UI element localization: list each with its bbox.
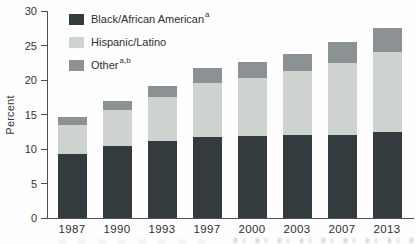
bar-2007 [328, 11, 357, 218]
legend-item: Hispanic/Latino [69, 36, 210, 49]
bar-segment-2000 [238, 78, 267, 136]
x-tick-label: 1993 [140, 223, 184, 235]
bar-segment-1993 [148, 141, 177, 218]
x-tick-label: 1997 [185, 223, 229, 235]
cropped-text-remnant [58, 240, 218, 243]
legend-label: Black/African American [91, 13, 204, 26]
legend-swatch [69, 37, 84, 48]
bar-segment-2000 [238, 62, 267, 78]
y-tick [41, 183, 47, 184]
bar-segment-2003 [283, 135, 312, 218]
bar-segment-2013 [373, 28, 402, 52]
bar-segment-2007 [328, 63, 357, 134]
bar-segment-2013 [373, 52, 402, 132]
y-tick [41, 11, 47, 12]
x-tick-label: 2013 [365, 223, 409, 235]
bar-segment-1993 [148, 86, 177, 97]
y-tick-label: 10 [7, 142, 37, 156]
bar-segment-1997 [193, 137, 222, 218]
y-tick-label: 30 [7, 4, 37, 18]
legend-label: Hispanic/Latino [91, 36, 166, 49]
bar-segment-1993 [148, 97, 177, 141]
legend-item: Black/African Americana [69, 13, 210, 26]
bar-segment-1987 [58, 125, 87, 154]
bar-segment-2003 [283, 54, 312, 71]
y-tick-label: 0 [7, 211, 37, 225]
bar-segment-1987 [58, 117, 87, 125]
bar-2013 [373, 11, 402, 218]
bar-segment-1987 [58, 154, 87, 218]
legend-label: Other [91, 59, 119, 72]
legend-superscript: a,b [120, 57, 131, 65]
cropped-text-remnant [234, 238, 414, 243]
y-tick-label: 5 [7, 177, 37, 191]
bar-segment-2003 [283, 71, 312, 135]
bar-segment-1990 [103, 101, 132, 110]
y-tick-label: 25 [7, 39, 37, 53]
x-tick-label: 1987 [50, 223, 94, 235]
legend-swatch [69, 14, 84, 25]
bar-segment-2000 [238, 136, 267, 218]
y-tick-label: 20 [7, 73, 37, 87]
y-tick [41, 149, 47, 150]
x-tick-label: 2003 [275, 223, 319, 235]
y-tick-label: 15 [7, 108, 37, 122]
bar-2000 [238, 11, 267, 218]
y-tick [41, 218, 47, 219]
bar-segment-2007 [328, 135, 357, 218]
legend-superscript: a [205, 11, 209, 19]
bar-segment-1990 [103, 146, 132, 218]
y-tick [41, 45, 47, 46]
bar-2003 [283, 11, 312, 218]
stacked-bar-chart: Percent 05101520253019871990199319972000… [0, 0, 416, 244]
x-tick-label: 2007 [320, 223, 364, 235]
y-tick [41, 80, 47, 81]
y-tick [41, 114, 47, 115]
bar-segment-1997 [193, 83, 222, 138]
bar-segment-2013 [373, 132, 402, 218]
legend-swatch [69, 60, 84, 71]
legend: Black/African AmericanaHispanic/LatinoOt… [69, 13, 210, 82]
bar-segment-1990 [103, 110, 132, 147]
x-tick-label: 2000 [230, 223, 274, 235]
bar-segment-2007 [328, 42, 357, 63]
legend-item: Othera,b [69, 59, 210, 72]
x-tick-label: 1990 [95, 223, 139, 235]
